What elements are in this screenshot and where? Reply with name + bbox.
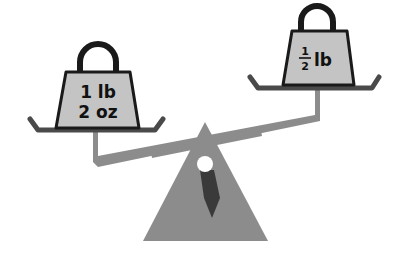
left-weight-line1: 1 lb (80, 82, 116, 102)
right-weight-denominator: 2 (301, 60, 309, 73)
right-weight-numerator: 1 (301, 45, 309, 58)
balance-scale-diagram: 1 lb 2 oz 1 2 lb (0, 0, 409, 253)
right-weight-handle (301, 6, 333, 30)
left-weight-line2: 2 oz (78, 102, 117, 122)
right-weight-unit: lb (314, 50, 332, 70)
pivot-circle (197, 156, 213, 172)
left-weight-handle (80, 44, 116, 72)
